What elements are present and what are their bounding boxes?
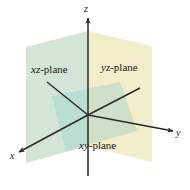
z-axis-label: z (84, 3, 88, 14)
xz-plane-label: xz-plane (31, 63, 68, 75)
coordinate-system-svg (0, 0, 190, 190)
yz-plane-label: yz-plane (101, 61, 138, 73)
xy-plane-label: xy-plane (79, 139, 116, 151)
y-axis-label: y (176, 127, 180, 138)
x-axis-label: x (10, 150, 14, 161)
coordinate-axes-figure: xz-plane yz-plane xy-plane x y z (0, 0, 190, 190)
